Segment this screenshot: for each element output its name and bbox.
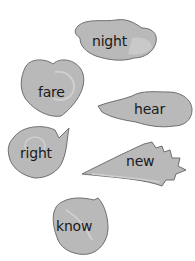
shell-fare[interactable]: fare	[19, 58, 87, 118]
word-new: new	[126, 154, 154, 168]
shell-right[interactable]: right	[7, 124, 73, 180]
shell-hear[interactable]: hear	[98, 90, 194, 128]
shell-new[interactable]: new	[82, 140, 188, 188]
word-hear: hear	[134, 102, 165, 116]
word-right: right	[20, 146, 52, 160]
shell-know[interactable]: know	[52, 196, 110, 256]
word-night: night	[92, 34, 127, 48]
shell-night[interactable]: night	[72, 18, 158, 62]
word-know: know	[56, 219, 92, 233]
word-fare: fare	[38, 85, 65, 99]
